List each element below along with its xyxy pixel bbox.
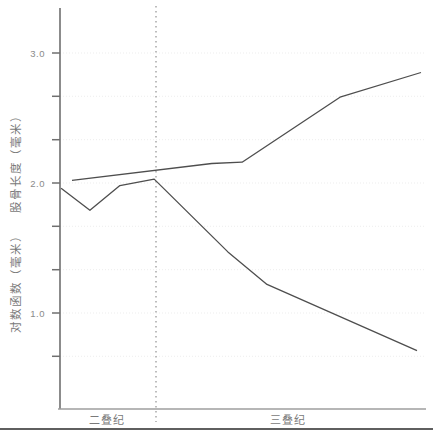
y-tick-label: 1.0 <box>30 308 45 319</box>
y-axis-title-upper: 股骨长度（毫米） <box>9 109 22 213</box>
line-chart: 3.02.01.0二叠纪三叠纪股骨长度（毫米）对数函数（毫米） <box>0 0 433 430</box>
chart-figure: 3.02.01.0二叠纪三叠纪股骨长度（毫米）对数函数（毫米） <box>0 0 433 430</box>
series-line-femur-length <box>72 73 421 181</box>
x-category-label: 三叠纪 <box>270 414 306 426</box>
series-line-log-function <box>61 179 417 351</box>
y-axis-title-lower: 对数函数（毫米） <box>9 229 22 333</box>
x-category-label: 二叠纪 <box>89 414 125 426</box>
y-tick-label: 3.0 <box>30 48 45 59</box>
y-tick-label: 2.0 <box>30 178 45 189</box>
